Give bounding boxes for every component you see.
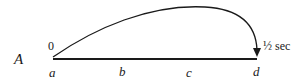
- point-label-b: b: [119, 65, 126, 78]
- row-label: A: [14, 52, 23, 67]
- diagram-canvas: [0, 0, 307, 79]
- point-label-a: a: [49, 66, 56, 79]
- arrowhead-icon: [253, 48, 261, 57]
- end-time-label: ½ sec: [263, 40, 290, 52]
- point-label-d: d: [253, 65, 260, 78]
- trajectory-arc: [53, 7, 257, 57]
- point-label-c: c: [186, 66, 192, 79]
- start-value: 0: [48, 40, 54, 52]
